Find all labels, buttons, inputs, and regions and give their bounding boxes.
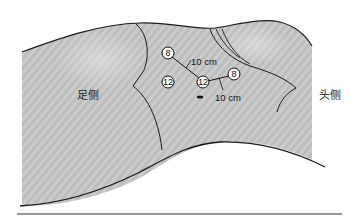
trocar-port-12-left: 12 <box>162 76 174 88</box>
shading-highlight <box>55 30 145 90</box>
distance-label: 10 cm <box>191 56 217 67</box>
port-size-label: 12 <box>163 77 173 87</box>
port-size-label: 8 <box>231 69 236 79</box>
port-placement-diagram: 8 12 12 8 10 cm 10 cm 足侧 头侧 <box>0 0 351 219</box>
navel-marker-icon <box>197 95 203 98</box>
trocar-port-8-upper: 8 <box>162 47 174 59</box>
port-size-label: 8 <box>165 48 170 58</box>
distance-label: 10 cm <box>215 92 241 103</box>
port-size-label: 12 <box>198 77 208 87</box>
head-side-label: 头侧 <box>319 89 341 102</box>
trocar-port-12-center: 12 <box>197 76 209 88</box>
foot-side-label: 足侧 <box>77 89 99 102</box>
trocar-port-8-right: 8 <box>228 68 240 80</box>
edge-fade <box>290 20 315 170</box>
